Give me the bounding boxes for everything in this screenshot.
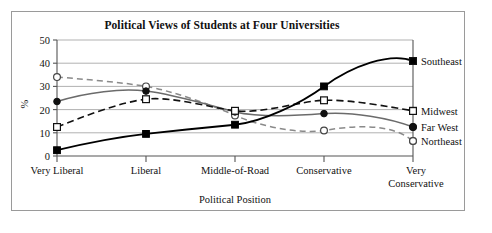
x-category-very-liberal: Very Liberal xyxy=(31,165,84,176)
y-tick-label-10: 10 xyxy=(40,128,51,139)
legend-label-midwest: Midwest xyxy=(421,106,458,117)
legend-label-farwest: Far West xyxy=(421,122,458,133)
x-category-middle-of-road: Middle-of-Road xyxy=(201,165,270,176)
legend-entry-southeast: Southeast xyxy=(421,56,462,67)
y-tick-label-30: 30 xyxy=(40,81,51,92)
y-tick-label-0: 0 xyxy=(45,151,50,162)
legend-label-southeast: Southeast xyxy=(421,56,462,67)
chart-canvas: 50 40 30 20 10 0 % xyxy=(12,12,466,212)
legend-marker-midwest xyxy=(410,108,417,115)
legend-marker-southeast xyxy=(410,58,417,65)
x-axis-title: Political Position xyxy=(199,194,272,205)
legend-entry-farwest: Far West xyxy=(421,122,458,133)
x-category-very-conservative-line1: Very xyxy=(406,165,427,176)
y-axis-title: % xyxy=(19,99,30,108)
x-category-conservative: Conservative xyxy=(296,165,352,176)
x-category-very-conservative-line2: Conservative xyxy=(388,178,444,189)
y-tick-label-20: 20 xyxy=(40,105,51,116)
y-tick-label-40: 40 xyxy=(40,58,51,69)
y-tick-label-50: 50 xyxy=(40,35,51,46)
series-line-southeast xyxy=(57,58,413,150)
legend-label-northeast: Northeast xyxy=(421,136,462,147)
legend-entry-northeast: Northeast xyxy=(421,136,462,147)
legend-entry-midwest: Midwest xyxy=(421,106,458,117)
x-tick-marks xyxy=(57,156,413,162)
legend-marker-far-west xyxy=(410,124,417,131)
figure-frame: Political Views of Students at Four Univ… xyxy=(11,11,465,211)
legend-marker-northeast xyxy=(410,138,417,145)
x-category-liberal: Liberal xyxy=(131,165,161,176)
